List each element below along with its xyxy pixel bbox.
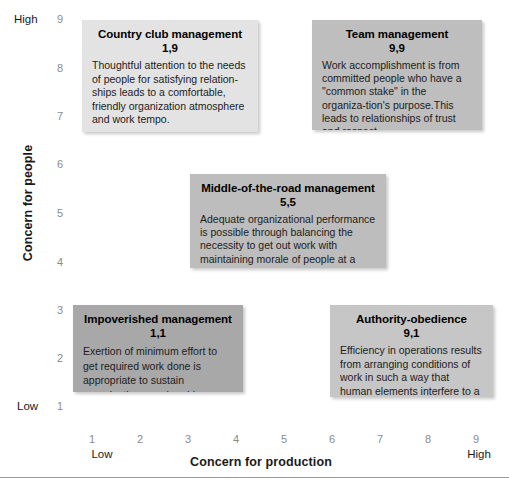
cell-title: Country club management: [92, 28, 248, 41]
grid-cell-impoverished-management: Impoverished management 1,1 Exertion of …: [73, 305, 243, 392]
x-axis-title: Concern for production: [146, 455, 376, 469]
cell-coordinate: 1,9: [92, 42, 248, 55]
y-axis-tick-1: 1: [52, 400, 68, 412]
y-axis-tick-4: 4: [52, 256, 68, 268]
y-axis-tick-9: 9: [52, 13, 68, 25]
cell-description: Thoughtful attention to the needs of peo…: [92, 59, 248, 127]
cell-coordinate: 9,9: [322, 42, 472, 55]
cell-title: Authority-obedience: [340, 313, 483, 326]
x-axis-tick-8: 8: [418, 433, 438, 445]
x-axis-low-label: Low: [85, 448, 119, 460]
grid-cell-authority-obedience: Authority-obedience 9,1 Efficiency in op…: [330, 305, 493, 397]
cell-coordinate: 1,1: [83, 327, 233, 340]
y-axis-low-label: Low: [17, 400, 38, 412]
y-axis-high-label: High: [14, 13, 38, 25]
x-axis-tick-5: 5: [274, 433, 294, 445]
x-axis-tick-9: 9: [466, 433, 486, 445]
x-axis-tick-6: 6: [322, 433, 342, 445]
y-axis-tick-2: 2: [52, 352, 68, 364]
cell-coordinate: 9,1: [340, 327, 483, 340]
cell-description: Exertion of minimum effort to get requir…: [83, 344, 233, 392]
x-axis-tick-2: 2: [130, 433, 150, 445]
x-axis-tick-4: 4: [226, 433, 246, 445]
y-axis-title: Concern for people: [21, 123, 35, 283]
cell-title: Impoverished management: [83, 313, 233, 326]
cell-title: Team management: [322, 28, 472, 41]
x-axis-tick-3: 3: [178, 433, 198, 445]
bottom-divider: [0, 477, 509, 478]
grid-cell-country-club-management: Country club management 1,9 Thoughtful a…: [82, 20, 258, 132]
cell-coordinate: 5,5: [200, 196, 376, 209]
cell-description: Efficiency in operations results from ar…: [340, 344, 483, 397]
managerial-grid-figure: Concern for people High Low 9 8 7 6 5 4 …: [0, 0, 509, 484]
y-axis-tick-7: 7: [52, 110, 68, 122]
x-axis-tick-1: 1: [82, 433, 102, 445]
y-axis-tick-8: 8: [52, 62, 68, 74]
x-axis-high-label: High: [462, 448, 496, 460]
cell-description: Adequate organizational performance is p…: [200, 213, 376, 268]
cell-title: Middle-of-the-road management: [200, 182, 376, 195]
y-axis-tick-5: 5: [52, 207, 68, 219]
y-axis-tick-3: 3: [52, 304, 68, 316]
x-axis-tick-7: 7: [370, 433, 390, 445]
cell-description: Work accomplishment is from committed pe…: [322, 59, 472, 130]
y-axis-tick-6: 6: [52, 158, 68, 170]
grid-cell-team-management: Team management 9,9 Work accomplishment …: [312, 20, 482, 130]
grid-cell-middle-of-the-road-management: Middle-of-the-road management 5,5 Adequa…: [190, 174, 386, 268]
